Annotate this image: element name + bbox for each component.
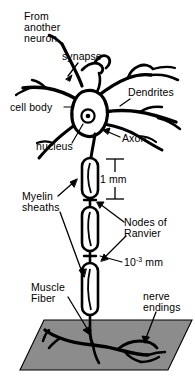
- label-scale-10-3-mm: 10-3 mm: [124, 257, 163, 268]
- muscle-fiber-slab: [20, 320, 192, 370]
- label-axon: Axon: [122, 133, 146, 144]
- label-nucleus: nucleus: [36, 141, 73, 152]
- label-myelin-sheaths: Myelin sheaths: [22, 191, 59, 213]
- scale-exponent: -3: [136, 256, 142, 263]
- myelin-sheaths-group: [82, 158, 98, 315]
- label-muscle-fiber: Muscle Fiber: [31, 282, 65, 304]
- nucleus-dot: [86, 114, 91, 119]
- label-synapse: synapse: [62, 51, 102, 62]
- label-from-another-neuron: From another neuron: [24, 11, 60, 45]
- label-cell-body: cell body: [10, 102, 52, 113]
- label-scale-1mm: 1 mm: [100, 174, 127, 185]
- scale-mantissa: 10: [124, 256, 136, 268]
- label-dendrites: Dendrites: [128, 87, 174, 98]
- label-nerve-endings: nerve endings: [143, 291, 180, 313]
- label-nodes-of-ranvier: Nodes of Ranvier: [124, 217, 167, 239]
- scale-unit: mm: [145, 256, 163, 268]
